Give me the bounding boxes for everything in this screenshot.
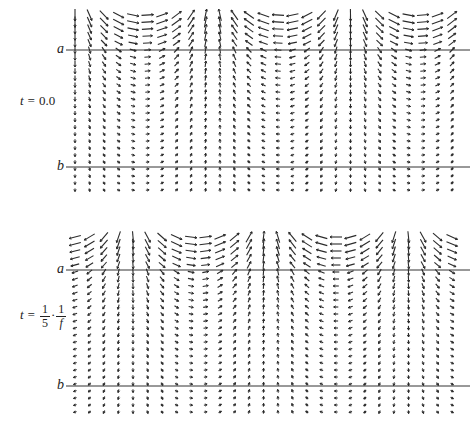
vector-arrow — [289, 247, 295, 255]
vector-arrow — [230, 240, 239, 247]
vector-arrow — [361, 256, 369, 261]
vector-arrow — [360, 241, 370, 247]
vector-arrow — [86, 256, 94, 261]
vector-arrow — [290, 255, 296, 262]
time-label-bottom: t = 15·1f — [20, 303, 67, 330]
vector-arrow — [230, 233, 239, 241]
vector-arrow — [215, 235, 226, 240]
vector-arrow — [434, 255, 441, 261]
fraction-one-over-f: 1f — [56, 303, 66, 330]
vector-arrow — [231, 255, 238, 261]
boundary-label-a: a — [57, 261, 64, 277]
vector-field-bottom — [0, 0, 475, 423]
vector-arrow — [84, 234, 94, 240]
vector-arrow — [171, 235, 182, 240]
vector-arrow — [231, 248, 239, 255]
vector-arrow — [101, 247, 107, 254]
vector-arrow — [101, 255, 107, 262]
vector-arrow — [303, 248, 312, 253]
vector-arrow — [290, 262, 295, 268]
vector-arrow — [158, 248, 166, 255]
fraction-one-fifth: 15 — [40, 303, 50, 330]
vector-arrow — [361, 248, 370, 253]
vector-arrow — [360, 234, 370, 240]
vector-arrow — [304, 263, 311, 267]
vector-arrow — [158, 233, 167, 241]
vector-arrow — [302, 234, 312, 240]
vector-arrow — [231, 262, 237, 267]
vector-arrow — [159, 255, 166, 261]
time-prefix: t = — [20, 307, 39, 322]
vector-arrow — [101, 262, 106, 268]
vector-arrow — [434, 262, 440, 267]
vector-arrow — [433, 233, 442, 241]
vector-arrow — [86, 263, 93, 267]
vector-arrow — [85, 248, 94, 253]
vector-arrow — [215, 242, 226, 247]
vector-arrow — [85, 241, 95, 247]
vector-arrow — [302, 241, 312, 247]
vector-arrow — [215, 249, 225, 253]
vector-arrow — [376, 247, 382, 255]
vector-arrow — [447, 242, 458, 247]
multiply-dot: · — [51, 307, 55, 322]
vector-arrow — [377, 255, 383, 262]
vector-arrow — [303, 256, 311, 261]
vector-arrow — [171, 242, 182, 247]
boundary-label-b: b — [57, 377, 64, 393]
vector-arrow — [434, 248, 442, 255]
vector-arrow — [433, 240, 442, 247]
panel-bottom: a b t = 15·1f — [0, 0, 475, 423]
vector-arrow — [447, 249, 457, 253]
vector-arrow — [158, 240, 166, 247]
vector-arrow — [447, 235, 458, 240]
vector-arrow — [159, 262, 165, 267]
vector-arrow — [377, 262, 382, 268]
vector-arrow — [172, 249, 182, 253]
vector-arrow — [361, 263, 368, 267]
